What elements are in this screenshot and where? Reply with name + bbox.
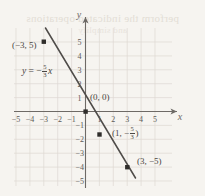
equation-denominator: 3: [42, 71, 47, 79]
point-label-prefix: (1, −: [112, 128, 129, 138]
y-tick-neg4: −4: [75, 163, 84, 172]
point-label-3-neg5: (3, −5): [137, 156, 162, 166]
equation-numerator: 5: [42, 64, 47, 71]
x-tick-neg5: −5: [12, 115, 21, 124]
y-tick-5: 5: [78, 38, 82, 47]
y-tick-2: 2: [78, 80, 82, 89]
y-tick-1: 1: [78, 94, 82, 103]
marker-1-neg53: [97, 132, 101, 136]
graph-page: perform the indicated operations and sim…: [0, 0, 205, 196]
x-tick-neg4: −4: [26, 115, 35, 124]
equation-sign: −: [36, 66, 41, 76]
y-tick-neg5: −5: [75, 177, 84, 186]
equation-lhs: y: [22, 66, 26, 76]
x-tick-5: 5: [153, 115, 157, 124]
equation-variable: x: [48, 66, 52, 76]
equation-fraction: 53: [42, 64, 47, 79]
y-tick-neg1: −1: [75, 121, 84, 130]
x-tick-labels: −5 −4 −3 −2 −1 1 2 3 4 5: [12, 115, 157, 124]
y-tick-3: 3: [78, 66, 82, 75]
x-tick-1: 1: [97, 115, 101, 124]
point-label-origin: (0, 0): [90, 92, 110, 102]
equation-label: y = −53x: [22, 64, 52, 79]
x-tick-3: 3: [125, 115, 129, 124]
y-axis-label: y: [76, 9, 82, 20]
point-label-suffix: ): [135, 128, 138, 138]
x-axis-label: x: [177, 111, 183, 122]
x-tick-neg2: −2: [53, 115, 62, 124]
plotted-line: [46, 28, 136, 178]
marker-neg3-5: [42, 40, 46, 44]
x-tick-2: 2: [111, 115, 115, 124]
equation-equals: =: [29, 66, 34, 76]
y-tick-4: 4: [78, 52, 82, 61]
marker-3-neg5: [125, 165, 129, 169]
point-label-1-neg5-3: (1, −53): [112, 126, 138, 141]
marker-0-0: [83, 109, 87, 113]
point-label-neg3-5: (−3, 5): [12, 40, 37, 50]
y-tick-neg3: −3: [75, 149, 84, 158]
y-tick-neg2: −2: [75, 135, 84, 144]
x-tick-4: 4: [139, 115, 143, 124]
x-tick-neg3: −3: [40, 115, 49, 124]
